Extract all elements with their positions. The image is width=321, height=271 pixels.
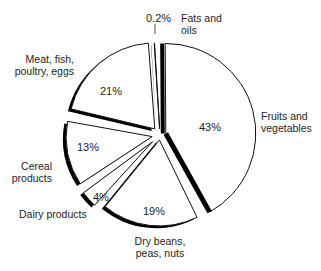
slice-edge-fruits-top: [162, 43, 163, 133]
pct-meat: 21%: [100, 85, 122, 97]
pie-slices: [63, 43, 256, 228]
label-dairy: Dairy products: [19, 208, 87, 220]
pct-dairy: 4%: [93, 191, 109, 203]
label-fruits: Fruits and vegetables: [261, 110, 312, 134]
label-line: poultry, eggs: [6, 65, 74, 77]
label-line: products: [4, 172, 52, 184]
label-line: Meat, fish,: [6, 53, 74, 65]
label-line: vegetables: [261, 122, 312, 134]
label-cereal: Cereal products: [4, 160, 52, 184]
label-meat: Meat, fish, poultry, eggs: [6, 53, 74, 77]
label-line: Fruits and: [261, 110, 312, 122]
label-line: oils: [181, 24, 222, 36]
label-line: Cereal: [4, 160, 52, 172]
label-line: peas, nuts: [120, 247, 200, 259]
label-beans: Dry beans, peas, nuts: [120, 235, 200, 259]
slice-fats-and-oils: [154, 43, 159, 129]
pct-fruits: 43%: [199, 121, 221, 133]
label-line: Dry beans,: [120, 235, 200, 247]
pie-chart: [0, 0, 321, 271]
label-line: Fats and: [181, 12, 222, 24]
pct-fats-and-oils: 0.2%: [146, 12, 171, 24]
label-fats-and-oils: Fats and oils: [181, 12, 222, 36]
pct-cereal: 13%: [77, 141, 99, 153]
caption-cutoff: [14, 262, 314, 268]
pct-beans: 19%: [143, 205, 165, 217]
